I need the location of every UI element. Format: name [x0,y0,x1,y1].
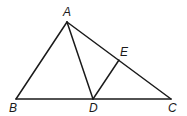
label-E: E [120,45,129,59]
label-A: A [62,5,71,19]
label-D: D [89,101,98,115]
segment-AD [67,22,93,99]
triangle-diagram: A B D C E [0,0,187,116]
label-C: C [168,101,177,115]
segment-AB [16,22,67,99]
label-B: B [9,101,17,115]
segment-DE [93,60,119,99]
